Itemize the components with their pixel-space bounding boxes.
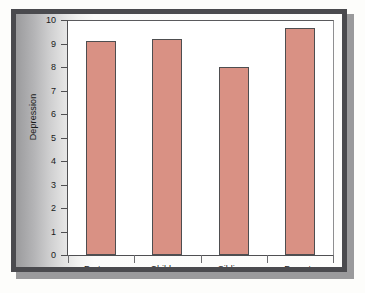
y-axis-tick bbox=[61, 208, 68, 209]
y-axis-tick bbox=[61, 185, 68, 186]
y-axis-tick-label: 3 bbox=[26, 180, 56, 190]
y-axis-tick bbox=[61, 114, 68, 115]
y-axis-tick bbox=[61, 232, 68, 233]
bar-children bbox=[152, 39, 182, 255]
x-axis-separator bbox=[267, 255, 268, 263]
y-axis-tick bbox=[61, 138, 68, 139]
scanned-figure-page: Depression 109876543210 PartnersChildren… bbox=[0, 0, 365, 293]
x-axis-label-children: Children bbox=[151, 264, 185, 267]
x-axis-label-parents: Parents bbox=[284, 264, 315, 267]
bar-parents bbox=[285, 28, 315, 255]
y-axis-tick-label: 9 bbox=[26, 39, 56, 49]
x-axis-separator bbox=[134, 255, 135, 263]
y-axis-tick bbox=[61, 91, 68, 92]
y-axis-tick-label: 4 bbox=[26, 156, 56, 166]
y-axis-tick-label: 2 bbox=[26, 203, 56, 213]
y-axis-tick bbox=[61, 67, 68, 68]
y-axis-tick bbox=[61, 20, 68, 21]
y-axis-tick-label: 5 bbox=[26, 133, 56, 143]
y-axis-tick bbox=[61, 255, 68, 256]
y-axis-tick-label: 6 bbox=[26, 109, 56, 119]
bar-partners bbox=[86, 41, 116, 255]
bar-siblings bbox=[219, 67, 249, 255]
x-axis-separator bbox=[201, 255, 202, 263]
y-axis-tick-label: 7 bbox=[26, 86, 56, 96]
x-axis-separator bbox=[333, 255, 334, 263]
y-axis-tick-label: 10 bbox=[26, 15, 56, 25]
figure-inner-plate: Depression 109876543210 PartnersChildren… bbox=[16, 14, 342, 267]
x-axis-label-partners: Partners bbox=[84, 264, 118, 267]
y-axis-tick bbox=[61, 161, 68, 162]
figure-outer-frame: Depression 109876543210 PartnersChildren… bbox=[11, 9, 347, 272]
y-axis-tick-label: 1 bbox=[26, 227, 56, 237]
y-axis-tick bbox=[61, 44, 68, 45]
y-axis-tick-label: 8 bbox=[26, 62, 56, 72]
x-axis-label-siblings: Siblings bbox=[218, 264, 250, 267]
bar-series bbox=[68, 21, 333, 255]
x-axis-separator bbox=[68, 255, 69, 263]
y-axis-tick-label: 0 bbox=[26, 250, 56, 260]
